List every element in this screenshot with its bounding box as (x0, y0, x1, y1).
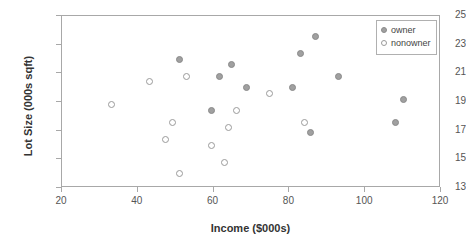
x-tick-mark (364, 187, 365, 192)
data-point-nonowner (221, 159, 228, 166)
legend: ownernonowner (376, 20, 437, 55)
data-point-owner (307, 129, 314, 136)
legend-marker-owner-icon (381, 27, 387, 33)
data-point-owner (243, 84, 250, 91)
data-point-nonowner (266, 90, 273, 97)
legend-marker-nonowner-icon (381, 40, 387, 46)
data-point-nonowner (108, 101, 115, 108)
x-tick-mark (61, 187, 62, 192)
data-point-owner (216, 73, 223, 80)
data-point-owner (176, 56, 183, 63)
x-axis-title: Income ($000s) (61, 222, 440, 234)
data-point-owner (400, 96, 407, 103)
data-point-owner (392, 119, 399, 126)
x-tick-mark (213, 187, 214, 192)
x-tick-label: 120 (425, 195, 455, 206)
data-point-nonowner (146, 78, 153, 85)
data-point-nonowner (162, 136, 169, 143)
x-tick-mark (440, 187, 441, 192)
data-point-nonowner (233, 107, 240, 114)
y-tick-label: 21 (448, 66, 466, 77)
data-point-nonowner (183, 73, 190, 80)
x-tick-label: 60 (198, 195, 228, 206)
data-point-nonowner (169, 119, 176, 126)
y-tick-label: 13 (448, 181, 466, 192)
data-point-nonowner (208, 142, 215, 149)
data-point-owner (208, 107, 215, 114)
data-point-nonowner (225, 124, 232, 131)
y-tick-label: 23 (448, 38, 466, 49)
x-tick-label: 100 (349, 195, 379, 206)
data-point-owner (289, 84, 296, 91)
x-tick-mark (288, 187, 289, 192)
x-tick-mark (137, 187, 138, 192)
y-tick-label: 17 (448, 124, 466, 135)
x-tick-label: 40 (122, 195, 152, 206)
data-point-nonowner (176, 170, 183, 177)
y-tick-label: 19 (448, 95, 466, 106)
x-tick-label: 80 (273, 195, 303, 206)
y-tick-label: 25 (448, 9, 466, 20)
legend-item-nonowner[interactable]: nonowner (381, 37, 432, 49)
data-point-owner (335, 73, 342, 80)
scatter-chart: Lot Size (000s sqft) Income ($000s) 1315… (0, 0, 466, 248)
legend-item-label: owner (391, 25, 416, 35)
data-point-owner (312, 33, 319, 40)
legend-item-owner[interactable]: owner (381, 24, 432, 36)
data-point-owner (297, 50, 304, 57)
data-point-nonowner (301, 119, 308, 126)
y-axis-title: Lot Size (000s sqft) (22, 16, 34, 196)
legend-item-label: nonowner (391, 38, 431, 48)
y-tick-label: 15 (448, 152, 466, 163)
data-point-owner (228, 61, 235, 68)
x-tick-label: 20 (46, 195, 76, 206)
